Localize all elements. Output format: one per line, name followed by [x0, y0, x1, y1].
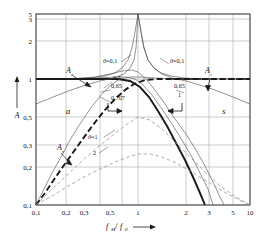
y-tick-02: 0,2	[23, 164, 32, 172]
x-tick-2: 2	[184, 209, 188, 217]
annotation-theta-1-right: 1	[178, 91, 181, 98]
annotation-theta-1-lower: ϑ=1	[88, 133, 98, 140]
x-tick-1: 1	[136, 209, 140, 217]
annotation-theta-065-left: 0,65	[111, 82, 122, 89]
x-tick-02: 0,2	[62, 209, 71, 217]
region-label-a: a	[66, 106, 70, 116]
x-tick-10: 10	[247, 209, 255, 217]
annotation-theta-01-left: ϑ=0,1	[103, 57, 117, 64]
chart-background	[0, 0, 266, 242]
x-tick-01: 0,1	[32, 209, 41, 217]
x-tick-3: 3	[207, 209, 211, 217]
annotation-theta-05-left: 0,5	[113, 74, 121, 81]
frequency-response-chart: 5 3 2 1 0,5 0,3 0,2 0,1 0,1 0,2 0,3 0,5 …	[0, 0, 266, 242]
y-axis-title: A	[14, 111, 20, 120]
annotation-theta-2-lower: 2	[93, 149, 96, 156]
x-tick-03: 0,3	[80, 209, 89, 217]
y-tick-3: 3	[29, 16, 33, 24]
y-tick-1: 1	[29, 76, 33, 84]
annotation-theta-065-right: 0,65	[174, 82, 185, 89]
chart-figure: 5 3 2 1 0,5 0,3 0,2 0,1 0,1 0,2 0,3 0,5 …	[0, 0, 266, 242]
label-A-s-sub: s	[210, 72, 212, 77]
y-tick-2: 2	[29, 38, 33, 46]
x-tick-5: 5	[231, 209, 235, 217]
annotation-theta-01-right: ϑ=0,1	[170, 57, 184, 64]
y-tick-05: 0,5	[23, 114, 32, 122]
annotation-theta-0707-left: 0,707	[111, 94, 125, 101]
x-tick-05: 0,5	[106, 209, 115, 217]
y-tick-03: 0,3	[23, 142, 32, 150]
